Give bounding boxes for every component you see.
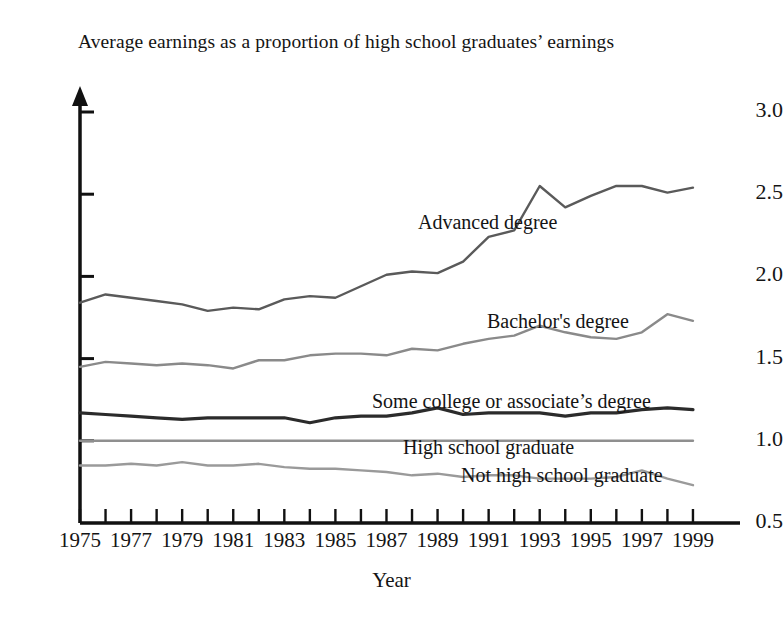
chart-figure: Average earnings as a proportion of high… xyxy=(0,0,783,621)
x-axis-tick-label: 1999 xyxy=(658,528,728,553)
y-axis-tick-label: 2.0 xyxy=(723,261,783,287)
y-axis-tick-label: 3.0 xyxy=(723,97,783,123)
y-axis-arrow-icon xyxy=(72,86,88,106)
y-axis-tick-label: 2.5 xyxy=(723,179,783,205)
series-label-0: Advanced degree xyxy=(418,211,557,234)
series-label-2: Some college or associate’s degree xyxy=(372,390,651,413)
series-label-3: High school graduate xyxy=(403,436,574,459)
data-series-group xyxy=(80,186,693,485)
y-axis-tick-label: 1.5 xyxy=(723,344,783,370)
y-axis-tick-label: 0.5 xyxy=(723,508,783,534)
series-line-0 xyxy=(80,186,693,311)
series-label-1: Bachelor's degree xyxy=(487,310,629,333)
y-axis-tick-label: 1.0 xyxy=(723,426,783,452)
x-axis-title: Year xyxy=(0,568,783,593)
series-label-4: Not high school graduate xyxy=(461,464,663,487)
